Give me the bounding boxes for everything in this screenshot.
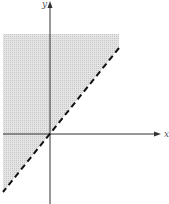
y-axis-label: y [41,0,48,9]
inequality-graph: x y [0,0,169,204]
y-axis-arrow-icon [48,1,53,8]
shaded-region [3,34,119,192]
x-axis-label: x [164,129,169,139]
x-axis-arrow-icon [154,132,161,137]
